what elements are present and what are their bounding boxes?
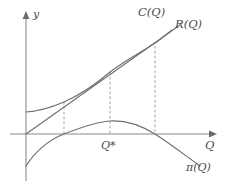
y-axis-arrow-icon <box>23 11 30 19</box>
y-axis <box>23 11 30 181</box>
cost-curve-label: C(Q) <box>138 7 165 19</box>
economics-cost-revenue-profit-figure: y C(Q) R(Q) Q* Q π(Q) <box>0 0 230 182</box>
q-star-label: Q* <box>101 140 116 151</box>
x-axis-arrow-icon <box>209 131 217 138</box>
cost-curve-CQ <box>26 30 172 112</box>
x-axis <box>10 131 217 138</box>
revenue-curve-label: R(Q) <box>175 19 202 31</box>
y-axis-label: y <box>33 9 39 20</box>
profit-curve-label: π(Q) <box>186 162 211 173</box>
revenue-curve-RQ <box>26 25 180 134</box>
x-axis-label: Q <box>205 140 214 152</box>
